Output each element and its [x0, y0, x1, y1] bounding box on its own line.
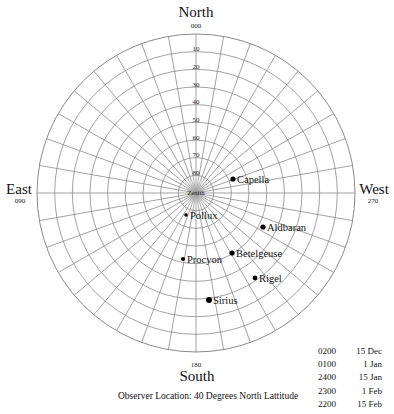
star-dot-icon	[253, 276, 258, 281]
zenith-label: Zenith	[188, 189, 206, 196]
star-dot-icon	[229, 250, 234, 255]
altitude-label: 70	[193, 151, 201, 159]
date: 15 Feb	[344, 398, 382, 411]
altitude-label: 80	[193, 169, 201, 177]
star-label: Capella	[237, 174, 269, 185]
star-capella: Capella	[230, 174, 269, 185]
date: 1 Feb	[344, 385, 382, 398]
star-pollux: Pollux	[184, 210, 218, 221]
altitude-label: 10	[193, 45, 201, 53]
time-row: 2300 1 Feb	[318, 385, 382, 398]
altitude-label: 30	[193, 81, 201, 89]
time: 2300	[318, 385, 344, 398]
star-dot-icon	[230, 176, 235, 181]
star-label: Pollux	[190, 210, 218, 221]
star-dot-icon	[184, 213, 188, 217]
star-dot-icon	[206, 297, 212, 303]
time-row: 2200 15 Feb	[318, 398, 382, 411]
star-dot-icon	[260, 224, 265, 229]
star-aldbaran: Aldbaran	[260, 222, 306, 233]
star-label: Rigel	[259, 273, 282, 284]
star-procyon: Procyon	[181, 254, 223, 265]
east-degrees: 090	[10, 198, 30, 205]
star-betelgeuse: Betelgeuse	[229, 248, 282, 259]
star-label: Procyon	[187, 254, 223, 265]
star-sirius: Sirius	[206, 295, 238, 306]
south-label: South	[176, 369, 218, 384]
time: 0100	[318, 358, 344, 371]
observer-location: Observer Location: 40 Degrees North Latt…	[118, 391, 318, 402]
east-label: East	[2, 182, 36, 197]
time: 2200	[318, 398, 344, 411]
date: 15 Jan	[344, 371, 382, 384]
north-degrees: 000	[186, 23, 206, 30]
time-row: 2400 15 Jan	[318, 371, 382, 384]
time-row: 0100 1 Jan	[318, 358, 382, 371]
date: 15 Dec	[344, 345, 382, 358]
altitude-label: 40	[193, 98, 201, 106]
altitude-label: 60	[193, 134, 201, 142]
altitude-label: 50	[193, 116, 201, 124]
altitude-label: 20	[193, 63, 201, 71]
west-label: West	[355, 182, 393, 197]
viewing-times-table: 0200 15 Dec 0100 1 Jan 2400 15 Jan 2300 …	[318, 345, 382, 411]
time: 0200	[318, 345, 344, 358]
star-label: Betelgeuse	[236, 248, 282, 259]
star-label: Aldbaran	[267, 222, 307, 233]
star-label: Sirius	[213, 295, 238, 306]
star-rigel: Rigel	[253, 273, 282, 284]
date: 1 Jan	[344, 358, 382, 371]
time: 2400	[318, 371, 344, 384]
star-dot-icon	[181, 257, 185, 261]
north-label: North	[176, 5, 216, 20]
west-degrees: 270	[363, 198, 383, 205]
time-row: 0200 15 Dec	[318, 345, 382, 358]
